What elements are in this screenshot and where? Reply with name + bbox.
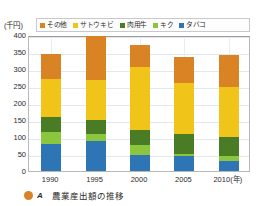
bar-segment: [130, 67, 150, 130]
bar-segment: [219, 137, 239, 156]
figure-caption: A 農業産出額の推移: [24, 189, 124, 201]
bar-segment: [41, 117, 61, 132]
plot-area: [28, 36, 250, 172]
y-axis-tick-label: 50: [18, 151, 26, 159]
bar-segment: [86, 141, 106, 171]
bullet-circle-icon: [24, 191, 33, 200]
bar-2005: [174, 57, 194, 171]
y-axis-tick-label: 300: [13, 66, 26, 74]
legend-item-2[interactable]: 肉用牛: [120, 21, 148, 29]
bar-segment: [41, 144, 61, 171]
y-axis-tick-label: 250: [13, 83, 26, 91]
y-axis-tick-label: 150: [13, 117, 26, 125]
x-axis-tick-label: 2010(年): [213, 175, 242, 184]
legend-item-0[interactable]: その他: [40, 21, 68, 29]
bar-segment: [41, 54, 61, 79]
bar-segment: [174, 134, 194, 154]
bar-segment: [219, 55, 239, 87]
caption-text: 農業産出額の推移: [52, 189, 124, 201]
bar-segment: [130, 130, 150, 145]
legend-item-1[interactable]: サトウキビ: [73, 21, 115, 29]
bar-1990: [41, 54, 61, 171]
y-axis-tick-label: 0: [22, 168, 26, 176]
bar-segment: [41, 132, 61, 145]
legend-swatch-icon: [73, 23, 78, 28]
bar-2010: [219, 55, 239, 171]
bar-segment: [41, 79, 61, 116]
legend-label: その他: [47, 21, 67, 29]
bar-segment: [86, 120, 106, 134]
legend-label: サトウキビ: [80, 21, 114, 29]
agricultural-output-chart-figure: (千円) その他サトウキビ肉用牛キクタバコ 400350300250200150…: [0, 0, 257, 206]
bar-1995: [86, 36, 106, 171]
y-axis-unit-label: (千円): [4, 19, 23, 30]
legend-label: キク: [160, 21, 173, 29]
x-axis-tick-label: 1990: [42, 175, 59, 184]
bar-segment: [174, 83, 194, 133]
y-axis-tick-label: 200: [13, 100, 26, 108]
legend-label: 肉用牛: [127, 21, 147, 29]
bar-segment: [219, 161, 239, 171]
legend-swatch-icon: [120, 23, 125, 28]
legend-swatch-icon: [153, 23, 158, 28]
y-axis-tick-label: 100: [13, 134, 26, 142]
bar-2000: [130, 45, 150, 171]
bar-segment: [130, 155, 150, 171]
legend-item-4[interactable]: タバコ: [179, 21, 207, 29]
chart-legend: その他サトウキビ肉用牛キクタバコ: [36, 18, 250, 32]
caption-letter: A: [37, 191, 43, 200]
legend-swatch-icon: [179, 23, 184, 28]
bar-segment: [174, 156, 194, 171]
bar-segment: [86, 80, 106, 120]
x-axis-tick-label: 1995: [86, 175, 103, 184]
legend-label: タバコ: [186, 21, 206, 29]
y-axis-tick-layer: 400350300250200150100500: [0, 36, 26, 172]
bar-segment: [174, 57, 194, 84]
bar-segment: [86, 134, 106, 141]
bar-segment: [130, 45, 150, 67]
x-axis-tick-label: 2000: [131, 175, 148, 184]
x-axis-tick-layer: 19901995200020052010(年): [28, 173, 250, 185]
y-axis-tick-label: 350: [13, 49, 26, 57]
x-axis-tick-label: 2005: [175, 175, 192, 184]
y-axis-tick-label: 400: [13, 32, 26, 40]
bar-segment: [219, 87, 239, 137]
legend-swatch-icon: [40, 23, 45, 28]
gridline-horizontal: [29, 37, 249, 38]
bar-segment: [86, 36, 106, 80]
legend-item-3[interactable]: キク: [153, 21, 174, 29]
bar-segment: [130, 145, 150, 155]
